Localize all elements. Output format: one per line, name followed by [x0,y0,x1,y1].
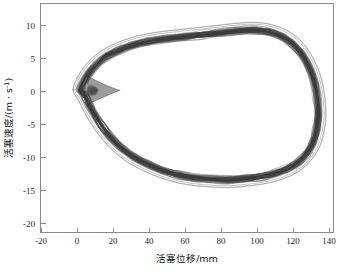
svg-text:活塞速度/(m · s-1): 活塞速度/(m · s-1) [3,78,14,158]
x-tick-label: 120 [286,236,300,246]
y-tick-label: 10 [26,21,36,31]
x-tick-label: 20 [109,236,119,246]
y-axis-title: 活塞速度/(m · s-1) [3,78,14,158]
y-tick-label: -5 [28,120,36,130]
y-tick-label: -15 [23,186,35,196]
x-tick-label: 80 [217,236,227,246]
x-tick-label: 100 [250,236,264,246]
x-tick-label: 140 [322,236,336,246]
y-axis-title-main: 活塞速度/(m · s [3,88,14,158]
x-tick-label: 40 [145,236,155,246]
y-tick-label: 0 [31,87,36,97]
zero-crossing-density [91,87,99,92]
y-tick-label: -20 [23,219,35,229]
x-tick-label: -20 [35,236,47,246]
x-tick-label: 60 [181,236,191,246]
x-tick-label: 0 [75,236,80,246]
y-tick-label: -10 [23,153,35,163]
y-axis-title-tail: ) [3,78,14,82]
phase-portrait-chart: 10 5 0 -5 -10 -15 -20 -20 0 20 40 60 8 [0,0,345,272]
y-tick-label: 5 [31,54,36,64]
x-axis-title: 活塞位移/mm [156,253,218,264]
chart-figure: 10 5 0 -5 -10 -15 -20 -20 0 20 40 60 8 [0,0,345,272]
